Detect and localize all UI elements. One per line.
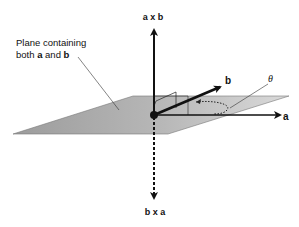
up-vector-label: a x b xyxy=(143,12,164,22)
vector-a-label: a xyxy=(283,111,289,122)
plane-label-line-2: both a and b xyxy=(16,49,70,60)
plane-label-b: b xyxy=(64,49,70,60)
angle-label: θ xyxy=(268,73,273,84)
origin-point xyxy=(150,111,158,119)
down-vector-label: b x a xyxy=(145,207,167,217)
plane-label-line-1: Plane containing xyxy=(16,37,86,48)
cross-product-diagram: a x b b x a a b θ Plane containing both … xyxy=(0,0,299,227)
plane-label-both: both xyxy=(16,49,37,60)
plane-label-leader xyxy=(78,57,119,110)
vector-b-label: b xyxy=(225,75,231,86)
plane-label-and: and xyxy=(42,49,63,60)
